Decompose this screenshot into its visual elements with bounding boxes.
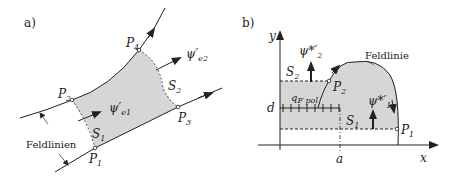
flux-2-label: ψ*′2 [299,44,322,60]
surface-s2-label: S2 [286,65,299,81]
flux-e2-label: ψ′e2 [186,47,208,63]
a-tick-label: a [336,152,343,166]
flux-arrow-e2 [156,58,180,70]
figure: a) P4 P2 P3 P1 S1 S2 ψ′e1 ψ′e2 Feldlinie… [0,0,449,178]
panel-b: b) y x a d S2 S1 P2 P1 ψ*′2 ψ*′1 qF pol … [242,16,437,166]
d-tick-label: d [267,101,275,115]
panel-b-label: b) [242,16,254,30]
x-axis-label: x [420,151,427,165]
surface-s2-label: S2 [168,79,181,95]
point-p2-label: P2 [57,87,71,103]
point-p1-label: P1 [400,123,414,139]
point-p3-label: P3 [177,111,191,127]
point-p1-label: P1 [88,152,102,168]
y-axis-label: y [268,29,276,43]
panel-a: a) P4 P2 P3 P1 S1 S2 ψ′e1 ψ′e2 Feldlinie… [20,8,222,172]
panel-a-label: a) [24,16,36,30]
field-line-label: Feldlinie [365,50,409,61]
point-p4-label: P4 [125,36,139,52]
field-lines-label: Feldlinien [26,139,77,150]
